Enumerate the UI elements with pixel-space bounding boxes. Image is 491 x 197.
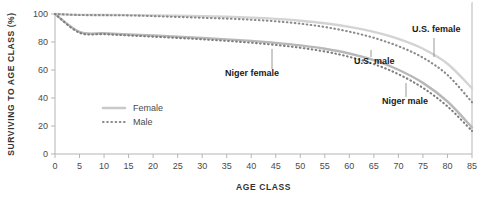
x-axis-tick-label: 45 [271, 161, 281, 171]
x-axis-tick-label: 30 [197, 161, 207, 171]
chart-canvas: 0204060801000510152025303540455055606570… [0, 0, 491, 197]
y-axis-tick-label: 100 [33, 9, 48, 19]
y-axis-tick-label: 60 [38, 65, 48, 75]
x-axis-title: AGE CLASS [236, 182, 291, 192]
x-axis-tick-label: 80 [442, 161, 452, 171]
series-annotations: U.S. femaleU.S. maleNiger femaleNiger ma… [225, 24, 461, 106]
annotation-label-u-s-female: U.S. female [412, 24, 461, 34]
x-axis-tick-label: 70 [393, 161, 403, 171]
x-axis-tick-label: 25 [173, 161, 183, 171]
x-axis-tick-label: 20 [148, 161, 158, 171]
y-axis-title: SURVIVING TO AGE CLASS (%) [6, 12, 16, 155]
x-axis-tick-label: 10 [99, 161, 109, 171]
y-axis-tick-label: 20 [38, 121, 48, 131]
legend-label-male: Male [133, 117, 153, 127]
x-axis-tick-label: 40 [246, 161, 256, 171]
y-axis-tick-label: 0 [43, 149, 48, 159]
annotation-label-niger-male: Niger male [382, 96, 428, 106]
x-axis-tick-label: 65 [369, 161, 379, 171]
plot-frame [55, 2, 472, 154]
x-axis-tick-label: 55 [320, 161, 330, 171]
x-axis-tick-label: 85 [467, 161, 477, 171]
x-axis-tick-label: 5 [77, 161, 82, 171]
x-axis-tick-label: 50 [295, 161, 305, 171]
annotation-label-u-s-male: U.S. male [354, 56, 395, 66]
y-axis-tick-label: 40 [38, 93, 48, 103]
annotation-label-niger-female: Niger female [225, 68, 279, 78]
x-axis-tick-label: 75 [418, 161, 428, 171]
series-line-u-s-male [55, 14, 472, 102]
survival-curve-chart: 0204060801000510152025303540455055606570… [0, 0, 491, 197]
x-axis-tick-label: 35 [222, 161, 232, 171]
legend-label-female: Female [133, 103, 163, 113]
x-axis-tick-label: 0 [52, 161, 57, 171]
x-axis-tick-label: 60 [344, 161, 354, 171]
x-axis-tick-label: 15 [124, 161, 134, 171]
y-axis-tick-label: 80 [38, 37, 48, 47]
chart-legend: FemaleMale [103, 103, 163, 127]
